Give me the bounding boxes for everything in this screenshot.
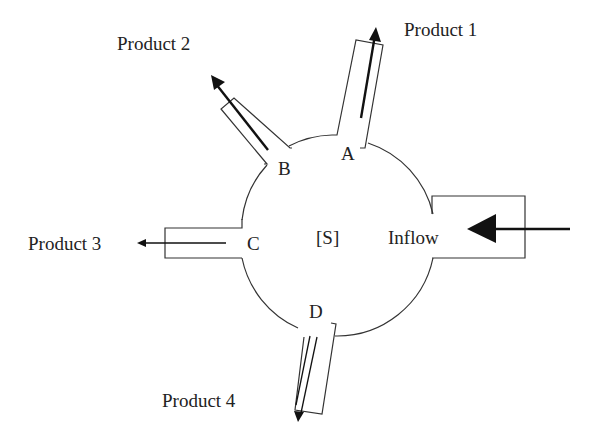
outlet-d xyxy=(294,323,336,422)
vessel-arc-b-a xyxy=(289,135,332,146)
port-b-label: B xyxy=(278,158,291,179)
product-4-label: Product 4 xyxy=(162,390,236,411)
outlet-c xyxy=(137,219,242,258)
vessel-arc-d-c xyxy=(242,258,298,328)
tube-b xyxy=(221,98,292,164)
port-c-label: C xyxy=(247,233,260,254)
product-1-label: Product 1 xyxy=(404,19,477,40)
flow-arrow-d xyxy=(301,337,317,413)
product-2-label: Product 2 xyxy=(117,33,190,54)
outlet-a xyxy=(332,27,383,148)
vessel-arc-a-inflow xyxy=(368,143,433,214)
reactor-diagram: Product 1 Product 2 Product 3 Product 4 … xyxy=(0,0,597,444)
arrowhead-c-icon xyxy=(137,239,146,247)
flow-arrow-b xyxy=(216,84,268,150)
product-3-label: Product 3 xyxy=(28,233,101,254)
vessel-arc-c-b xyxy=(242,165,267,220)
inflow xyxy=(432,196,570,258)
arrowhead-d-icon xyxy=(294,411,304,422)
tube-c xyxy=(165,219,242,258)
tube-d xyxy=(295,323,336,414)
port-a-label: A xyxy=(341,143,355,164)
vessel-arc-inflow-d xyxy=(335,258,433,336)
arrowhead-a-icon xyxy=(369,27,381,42)
concentration-label: [S] xyxy=(316,227,339,248)
outlet-b xyxy=(211,75,292,164)
inflow-label: Inflow xyxy=(388,227,439,248)
arrowhead-inflow-icon xyxy=(467,214,496,243)
tube-a xyxy=(332,40,383,148)
port-d-label: D xyxy=(309,301,323,322)
